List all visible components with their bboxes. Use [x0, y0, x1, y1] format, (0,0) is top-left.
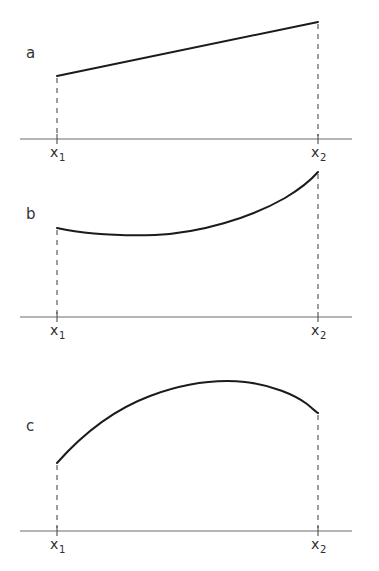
figure-root: a x 1 x 2 b	[0, 0, 379, 571]
panel-a-label-x2: x 2	[311, 144, 326, 163]
panel-b-label-x2-sub: 2	[320, 330, 326, 341]
panel-b-label-x1-sub: 1	[59, 330, 65, 341]
panel-a-curve	[57, 22, 318, 76]
panel-c-letter: c	[26, 417, 34, 435]
panel-c: c x 1 x 2	[20, 381, 352, 555]
panel-c-label-x1: x 1	[50, 536, 65, 555]
figure-canvas: a x 1 x 2 b	[0, 0, 379, 571]
panel-a-label-x1: x 1	[50, 144, 65, 163]
panel-c-label-x1-base: x	[50, 536, 58, 552]
panel-c-label-x1-sub: 1	[59, 544, 65, 555]
panel-c-label-x2-sub: 2	[320, 544, 326, 555]
panel-b-label-x2: x 2	[311, 322, 326, 341]
panel-a-letter: a	[26, 44, 35, 62]
panel-b-label-x2-base: x	[311, 322, 319, 338]
panel-a-label-x2-base: x	[311, 144, 319, 160]
panel-b-letter: b	[26, 205, 36, 223]
panel-b-label-x1-base: x	[50, 322, 58, 338]
panel-b-label-x1: x 1	[50, 322, 65, 341]
panel-a-label-x2-sub: 2	[320, 152, 326, 163]
panel-c-label-x2-base: x	[311, 536, 319, 552]
panel-b-curve	[57, 172, 318, 235]
panel-c-curve	[57, 381, 318, 463]
panel-b: b x 1 x 2	[20, 172, 352, 341]
panel-a-label-x1-sub: 1	[59, 152, 65, 163]
panel-a: a x 1 x 2	[20, 22, 352, 163]
panel-c-label-x2: x 2	[311, 536, 326, 555]
panel-a-label-x1-base: x	[50, 144, 58, 160]
